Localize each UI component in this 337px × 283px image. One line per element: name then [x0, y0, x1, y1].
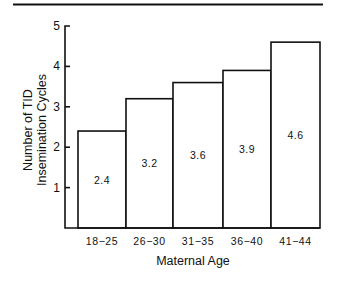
y-tick-label: 2	[53, 140, 60, 154]
x-tick-label: 36−40	[231, 235, 264, 247]
y-axis-title-line-2: Insemination Cycles	[35, 74, 49, 186]
x-tick-label: 18−25	[86, 235, 119, 247]
bar-value-label: 3.9	[239, 143, 255, 155]
x-axis-title: Maternal Age	[156, 254, 230, 268]
y-tick-label: 3	[53, 100, 60, 114]
y-tick-label: 1	[53, 181, 60, 195]
bar-value-label: 3.6	[190, 149, 206, 161]
x-tick-label: 41−44	[279, 235, 312, 247]
bar-value-label: 3.2	[142, 157, 158, 169]
x-tick-label: 31−35	[182, 235, 215, 247]
y-tick-label: 5	[53, 19, 60, 33]
y-axis-title-line-1: Number of TID	[21, 89, 35, 171]
x-tick-label: 26−30	[133, 235, 166, 247]
y-tick-label: 4	[53, 59, 60, 73]
chart: 12345 18−2526−3031−3536−4041−44 2.43.23.…	[0, 0, 337, 283]
bar-value-label: 2.4	[94, 174, 110, 186]
bar-value-label: 4.6	[288, 129, 304, 141]
